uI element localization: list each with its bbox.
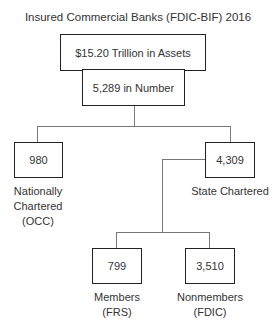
members-count-box: 799 xyxy=(92,248,142,284)
connector-line xyxy=(116,232,210,233)
diagram-title: Insured Commercial Banks (FDIC-BIF) 2016 xyxy=(0,11,276,23)
national-label: Nationally Chartered (OCC) xyxy=(0,184,76,229)
nonmembers-label: Nonmembers (FDIC) xyxy=(166,290,254,320)
connector-line xyxy=(134,106,135,126)
connector-line xyxy=(162,159,163,232)
total-assets-box: $15.20 Trillion in Assets xyxy=(60,34,206,71)
state-count-box: 4,309 xyxy=(205,142,255,178)
national-count-box: 980 xyxy=(14,142,63,178)
connector-line xyxy=(209,232,210,248)
total-number-box: 5,289 in Number xyxy=(82,69,185,106)
connector-line xyxy=(116,232,117,248)
members-label: Members (FRS) xyxy=(76,290,158,320)
connector-line xyxy=(37,126,231,127)
nonmembers-count-box: 3,510 xyxy=(185,248,235,284)
connector-line xyxy=(37,126,38,142)
connector-line xyxy=(230,126,231,142)
state-label: State Chartered xyxy=(180,184,276,199)
connector-line xyxy=(162,159,205,160)
